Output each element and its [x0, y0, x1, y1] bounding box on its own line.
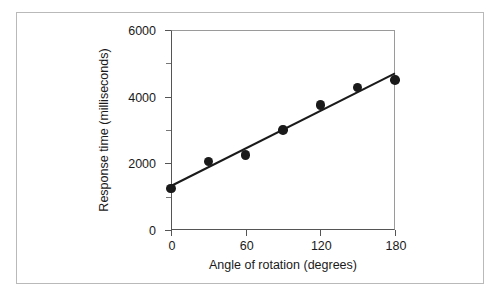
- x-axis-title: Angle of rotation (degrees): [171, 258, 395, 272]
- plot-area: [171, 30, 395, 230]
- figure-container: 0200040006000 060120180 Angle of rotatio…: [0, 0, 501, 298]
- y-axis-title: Response time (milliseconds): [97, 48, 111, 211]
